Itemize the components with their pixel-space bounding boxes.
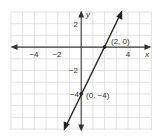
x-axis-left-arrow-icon bbox=[12, 45, 17, 49]
y-axis-up-arrow-icon bbox=[79, 12, 83, 17]
y-axis-label: y bbox=[85, 10, 91, 19]
line-bottom-arrow-icon bbox=[64, 123, 68, 130]
tick-y-neg4: −4 bbox=[70, 90, 80, 99]
x-axis-right-arrow-icon bbox=[145, 45, 150, 49]
point-label-y-intercept: (0, −4) bbox=[86, 91, 110, 100]
tick-y-neg2: −2 bbox=[69, 66, 79, 75]
point-y-intercept bbox=[79, 92, 83, 96]
tick-y-2: 2 bbox=[74, 20, 79, 29]
x-axis-label: x bbox=[144, 50, 150, 59]
tick-x-4: 4 bbox=[126, 50, 131, 59]
tick-x-neg4: −4 bbox=[29, 50, 39, 59]
coordinate-plane: −4 −2 4 x 2 −2 −4 y (2, 0) (0, −4) bbox=[0, 0, 157, 140]
point-label-x-intercept: (2, 0) bbox=[111, 37, 130, 46]
point-x-intercept bbox=[103, 45, 107, 49]
tick-x-neg2: −2 bbox=[52, 50, 62, 59]
y-axis bbox=[79, 12, 83, 130]
line-top-arrow-icon bbox=[118, 12, 122, 19]
